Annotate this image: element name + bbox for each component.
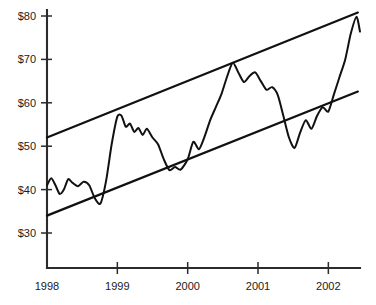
upper-resistance-line (47, 13, 358, 138)
y-axis-tick-labels: $30$40$50$60$70$80 (18, 10, 36, 239)
x-axis-tick-label: 2001 (246, 280, 270, 292)
x-axis-tick-labels: 19981999200020012002 (35, 280, 341, 292)
chart-canvas: $30$40$50$60$70$80 19981999200020012002 (0, 0, 376, 305)
y-axis-tick-label: $80 (18, 10, 36, 22)
stock-channel-chart: $30$40$50$60$70$80 19981999200020012002 (0, 0, 376, 305)
x-axis-tick-label: 1999 (105, 280, 129, 292)
y-axis-tick-label: $60 (18, 97, 36, 109)
y-axis-tick-label: $40 (18, 184, 36, 196)
y-axis-tick-label: $70 (18, 53, 36, 65)
x-axis-tick-label: 2000 (175, 280, 199, 292)
y-axis-tick-label: $50 (18, 140, 36, 152)
x-axis-tick-label: 2002 (316, 280, 340, 292)
y-axis-tick-label: $30 (18, 227, 36, 239)
x-axis-tick-label: 1998 (35, 280, 59, 292)
